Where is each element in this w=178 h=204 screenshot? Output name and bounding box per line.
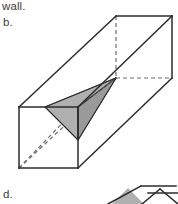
geometry-diagram-svg xyxy=(0,0,178,204)
prism-far-face xyxy=(116,16,172,78)
figure-root: wall. b. d. xyxy=(0,0,178,204)
figure-b-group xyxy=(19,16,172,168)
figure-d-edge-3 xyxy=(160,189,178,204)
figure-d-group xyxy=(108,186,178,204)
figure-d-shaded-region xyxy=(112,188,144,204)
figure-d-edge-2 xyxy=(142,189,160,204)
